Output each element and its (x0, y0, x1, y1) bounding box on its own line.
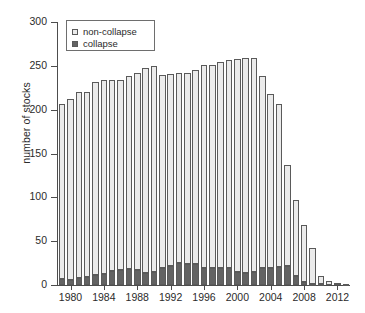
bar-1982[interactable] (84, 92, 91, 285)
bar-segment-non-collapse (67, 99, 74, 280)
bar-1991[interactable] (159, 75, 166, 285)
bar-2003[interactable] (259, 76, 266, 285)
legend-item-non-collapse: non-collapse (72, 26, 137, 38)
bar-segment-collapse (109, 271, 116, 285)
bar-segment-collapse (309, 284, 316, 286)
bar-1980[interactable] (67, 99, 74, 285)
bar-1997[interactable] (209, 65, 216, 285)
x-tick-mark (337, 285, 338, 290)
bar-2008[interactable] (301, 225, 308, 285)
bar-segment-non-collapse (159, 75, 166, 269)
x-tick-label: 2004 (253, 292, 289, 303)
bar-2007[interactable] (293, 200, 300, 285)
bar-segment-collapse (234, 272, 241, 285)
bar-segment-non-collapse (318, 276, 325, 284)
y-axis-title: number of stocks (20, 53, 32, 193)
bar-segment-non-collapse (167, 74, 174, 266)
bar-2004[interactable] (267, 94, 274, 285)
bar-segment-collapse (251, 272, 258, 285)
bar-segment-collapse (76, 278, 83, 285)
y-tick-label: 300 (29, 16, 47, 27)
bar-1996[interactable] (201, 65, 208, 285)
y-tick-mark (51, 66, 57, 67)
bar-segment-collapse (259, 268, 266, 285)
bar-2006[interactable] (284, 165, 291, 285)
bar-segment-non-collapse (326, 281, 333, 285)
bar-segment-collapse (117, 270, 124, 285)
bar-segment-non-collapse (267, 94, 274, 268)
bar-segment-non-collapse (201, 65, 208, 268)
bar-1983[interactable] (92, 82, 99, 285)
plot-area (0, 0, 365, 313)
bar-segment-collapse (142, 273, 149, 285)
legend-swatch-collapse-icon (72, 41, 78, 47)
bar-segment-collapse (92, 275, 99, 285)
bar-segment-non-collapse (142, 68, 149, 273)
bar-segment-non-collapse (101, 80, 108, 274)
legend-label-collapse: collapse (83, 39, 118, 49)
bar-segment-collapse (176, 263, 183, 285)
bar-segment-non-collapse (151, 66, 158, 272)
bar-segment-non-collapse (334, 283, 341, 285)
bar-1981[interactable] (76, 92, 83, 285)
bar-segment-non-collapse (234, 59, 241, 272)
bar-1995[interactable] (192, 70, 199, 285)
x-tick-mark (204, 285, 205, 290)
bar-2009[interactable] (309, 248, 316, 285)
bar-1988[interactable] (134, 73, 141, 285)
bar-segment-non-collapse (84, 92, 91, 277)
y-tick-mark (51, 110, 57, 111)
bar-segment-non-collapse (176, 73, 183, 263)
legend-label-non-collapse: non-collapse (83, 27, 137, 37)
bar-segment-collapse (159, 268, 166, 285)
x-tick-label: 1988 (119, 292, 155, 303)
y-axis-line (57, 22, 58, 285)
bar-2002[interactable] (251, 58, 258, 285)
bar-segment-non-collapse (251, 58, 258, 272)
bar-segment-collapse (209, 268, 216, 285)
bar-2011[interactable] (326, 281, 333, 285)
bar-1987[interactable] (126, 76, 133, 285)
bar-1998[interactable] (217, 62, 224, 285)
bar-1994[interactable] (184, 73, 191, 285)
x-tick-label: 1996 (186, 292, 222, 303)
bar-1993[interactable] (176, 73, 183, 285)
bar-segment-collapse (184, 264, 191, 285)
bar-segment-non-collapse (109, 80, 116, 271)
bar-segment-collapse (318, 284, 325, 286)
bar-segment-non-collapse (217, 62, 224, 268)
bar-segment-non-collapse (309, 248, 316, 284)
bar-segment-non-collapse (209, 65, 216, 268)
bar-segment-non-collapse (259, 76, 266, 268)
bar-1979[interactable] (59, 104, 66, 285)
y-tick-mark (51, 22, 57, 23)
x-tick-mark (171, 285, 172, 290)
x-tick-mark (304, 285, 305, 290)
x-tick-mark (104, 285, 105, 290)
y-tick-mark (51, 154, 57, 155)
bar-1984[interactable] (101, 80, 108, 285)
bar-segment-collapse (192, 264, 199, 285)
bar-1985[interactable] (109, 80, 116, 285)
bar-2001[interactable] (242, 58, 249, 285)
y-tick-label: 100 (29, 191, 47, 202)
bar-1989[interactable] (142, 68, 149, 285)
bar-2012[interactable] (334, 283, 341, 285)
stacked-bar-chart-figure: number of stocks 050100150200250300 1980… (0, 0, 365, 313)
x-tick-label: 1980 (53, 292, 89, 303)
bar-2005[interactable] (276, 104, 283, 285)
bar-2010[interactable] (318, 276, 325, 285)
bar-2000[interactable] (234, 59, 241, 285)
bar-segment-non-collapse (242, 58, 249, 273)
bar-1992[interactable] (167, 74, 174, 285)
bar-segment-non-collapse (76, 92, 83, 278)
legend-swatch-non-collapse-icon (72, 29, 78, 35)
bar-1986[interactable] (117, 80, 124, 285)
bar-2013[interactable] (343, 284, 350, 285)
bar-segment-collapse (201, 268, 208, 285)
y-tick-label: 200 (29, 104, 47, 115)
bar-1990[interactable] (151, 66, 158, 285)
y-tick-mark (51, 285, 57, 286)
bar-segment-non-collapse (92, 82, 99, 275)
bar-1999[interactable] (226, 60, 233, 285)
